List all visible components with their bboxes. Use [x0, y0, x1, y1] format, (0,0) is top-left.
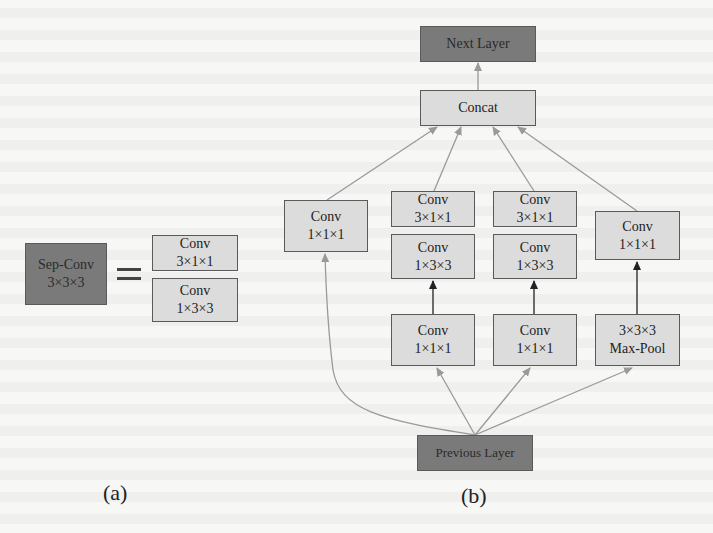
branch3-conv-1x1x1: Conv 1×1×1 — [493, 314, 577, 366]
edge-prev-to-b4 — [475, 368, 632, 435]
node-kernel: 1×1×1 — [415, 340, 452, 358]
node-kernel: 1×3×3 — [517, 257, 554, 275]
next-layer-box: Next Layer — [420, 26, 536, 62]
edge-branch3-to-concat — [493, 127, 534, 191]
node-title: 3×3×3 — [619, 322, 656, 340]
node-title: Conv — [520, 191, 550, 209]
sep-conv-box: Sep-Conv 3×3×3 — [25, 243, 107, 305]
sep-conv-title: Sep-Conv — [38, 256, 94, 274]
branch2-conv-1x3x3: Conv 1×3×3 — [391, 234, 475, 279]
node-kernel: 1×1×1 — [308, 226, 345, 244]
node-title: Conv — [418, 239, 448, 257]
decomp-conv-1x3x3: Conv 1×3×3 — [152, 278, 238, 322]
node-kernel: Max-Pool — [610, 340, 666, 358]
node-title: Conv — [622, 218, 652, 236]
node-title: Conv — [520, 322, 550, 340]
node-kernel: 1×1×1 — [517, 340, 554, 358]
concat-box: Concat — [420, 90, 536, 126]
node-title: Conv — [520, 239, 550, 257]
node-title: Conv — [311, 208, 341, 226]
branch4-max-pool: 3×3×3 Max-Pool — [595, 314, 680, 366]
equals-sign — [117, 268, 141, 282]
branch3-conv-3x1x1: Conv 3×1×1 — [493, 191, 577, 227]
concat-label: Concat — [458, 99, 498, 117]
node-title: Conv — [180, 235, 210, 253]
node-kernel: 3×1×1 — [177, 253, 214, 271]
branch4-conv-1x1x1: Conv 1×1×1 — [595, 211, 680, 260]
node-title: Conv — [180, 282, 210, 300]
previous-layer-box: Previous Layer — [417, 435, 533, 471]
edge-branch2-to-concat — [434, 127, 461, 191]
decomp-conv-3x1x1: Conv 3×1×1 — [152, 235, 238, 271]
edge-prev-to-b3 — [475, 368, 530, 435]
edge-prev-to-b2 — [437, 368, 475, 435]
node-kernel: 1×1×1 — [619, 236, 656, 254]
node-kernel: 3×1×1 — [517, 209, 554, 227]
branch2-conv-1x1x1: Conv 1×1×1 — [391, 314, 475, 366]
previous-layer-label: Previous Layer — [435, 444, 514, 462]
panel-b-label: (b) — [461, 483, 487, 509]
panel-a-label: (a) — [103, 480, 127, 506]
branch1-conv-1x1x1: Conv 1×1×1 — [284, 200, 368, 252]
branch3-conv-1x3x3: Conv 1×3×3 — [493, 234, 577, 279]
node-kernel: 3×1×1 — [415, 209, 452, 227]
edge-branch1-to-concat — [327, 127, 437, 200]
node-kernel: 1×3×3 — [415, 257, 452, 275]
node-title: Conv — [418, 191, 448, 209]
node-title: Conv — [418, 322, 448, 340]
next-layer-label: Next Layer — [446, 35, 509, 53]
sep-conv-kernel: 3×3×3 — [48, 274, 85, 292]
branch2-conv-3x1x1: Conv 3×1×1 — [391, 191, 475, 227]
node-kernel: 1×3×3 — [177, 300, 214, 318]
